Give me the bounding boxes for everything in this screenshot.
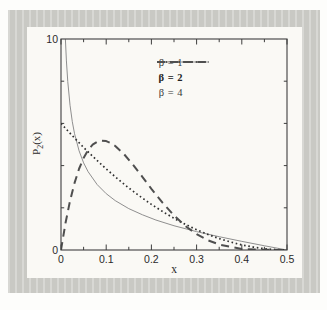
y-axis-label-subscript: 2: [36, 145, 45, 149]
x-tick-label-0.4: 0.4: [234, 253, 249, 265]
curve-beta4: [61, 141, 287, 250]
figure-background: { "figure": { "x_axis_label": "x", "y_ax…: [0, 0, 327, 310]
y-tick-label-10: 10: [27, 34, 58, 45]
x-tick-label-0.5: 0.5: [280, 253, 295, 265]
legend-line-sample-long-dash: [156, 55, 210, 69]
y-axis-label: P2(x): [30, 114, 43, 174]
y-tick-label-0: 0: [27, 245, 58, 256]
legend-label-beta-2: β = 2: [143, 72, 183, 83]
legend: β = 1 β = 2 β = 4: [143, 55, 183, 100]
legend-item-beta-4: β = 4: [143, 85, 183, 99]
x-tick-label-0: 0: [58, 253, 64, 265]
plot-panel: P2(x) x 00.10.20.30.40.5 010 β = 1 β = 2…: [27, 27, 302, 278]
x-tick-label-0.3: 0.3: [189, 253, 204, 265]
x-axis-label: x: [171, 263, 177, 275]
y-axis-label-rest: (x): [30, 132, 42, 145]
x-tick-label-0.2: 0.2: [144, 253, 159, 265]
x-tick-label-0.1: 0.1: [99, 253, 114, 265]
y-axis-label-base: P: [30, 149, 42, 155]
legend-item-beta-2: β = 2: [143, 70, 183, 84]
legend-label-beta-4: β = 4: [143, 87, 183, 98]
